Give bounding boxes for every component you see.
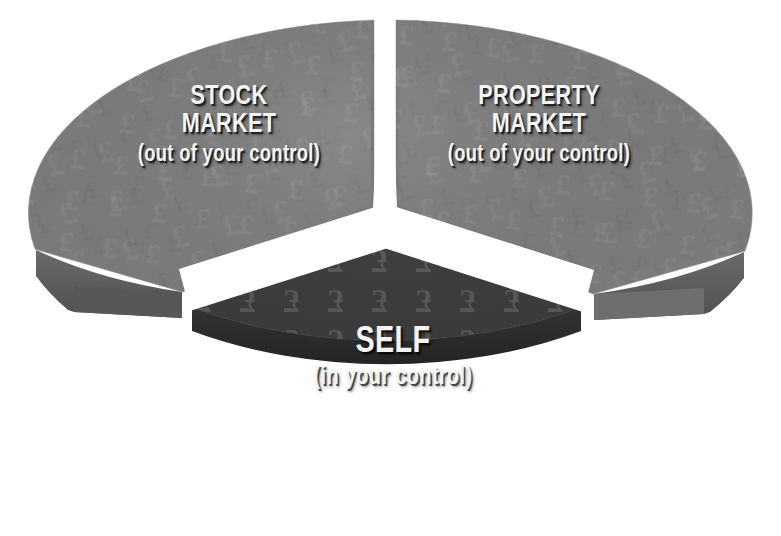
gap-vertical [373,18,397,207]
pie-chart-figure: £ £ £ £ £ [0,0,781,536]
pie-chart-graphic: £ £ £ £ £ [0,0,781,536]
